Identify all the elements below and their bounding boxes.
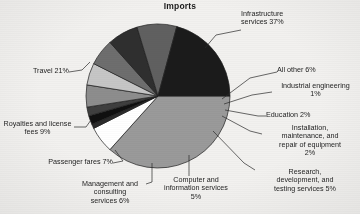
leader-line-travel [69,62,90,72]
slice-label-passenger-fares: Passenger fares 7% [24,158,113,166]
leader-line-infrastructure [205,30,241,48]
leader-line-installation [222,116,262,134]
slice-label-royalties: Royalties and license fees 9% [1,120,74,137]
slice-label-all-other: All other 6% [277,66,359,74]
slice-label-industrial-engineering: Industrial engineering 1% [271,82,360,99]
slice-label-travel: Travel 21% [14,67,69,75]
slice-label-computer: Computer and information services 5% [146,176,246,201]
chart-canvas: Imports Infrastructure services 37% All … [0,0,360,214]
leader-line-royalties [74,120,91,127]
pie-slices [86,24,230,168]
slice-label-management: Management and consulting services 6% [73,180,147,205]
slice-label-research: Research, development, and testing servi… [253,168,357,193]
slice-label-installation: Installation, maintenance, and repair of… [262,124,358,158]
leader-line-industrial-engineering [224,92,272,104]
leader-line-research [213,131,255,170]
slice-label-infrastructure: Infrastructure services 37% [241,10,353,27]
slice-label-education: Education 2% [266,111,356,119]
leader-line-education [225,110,266,116]
